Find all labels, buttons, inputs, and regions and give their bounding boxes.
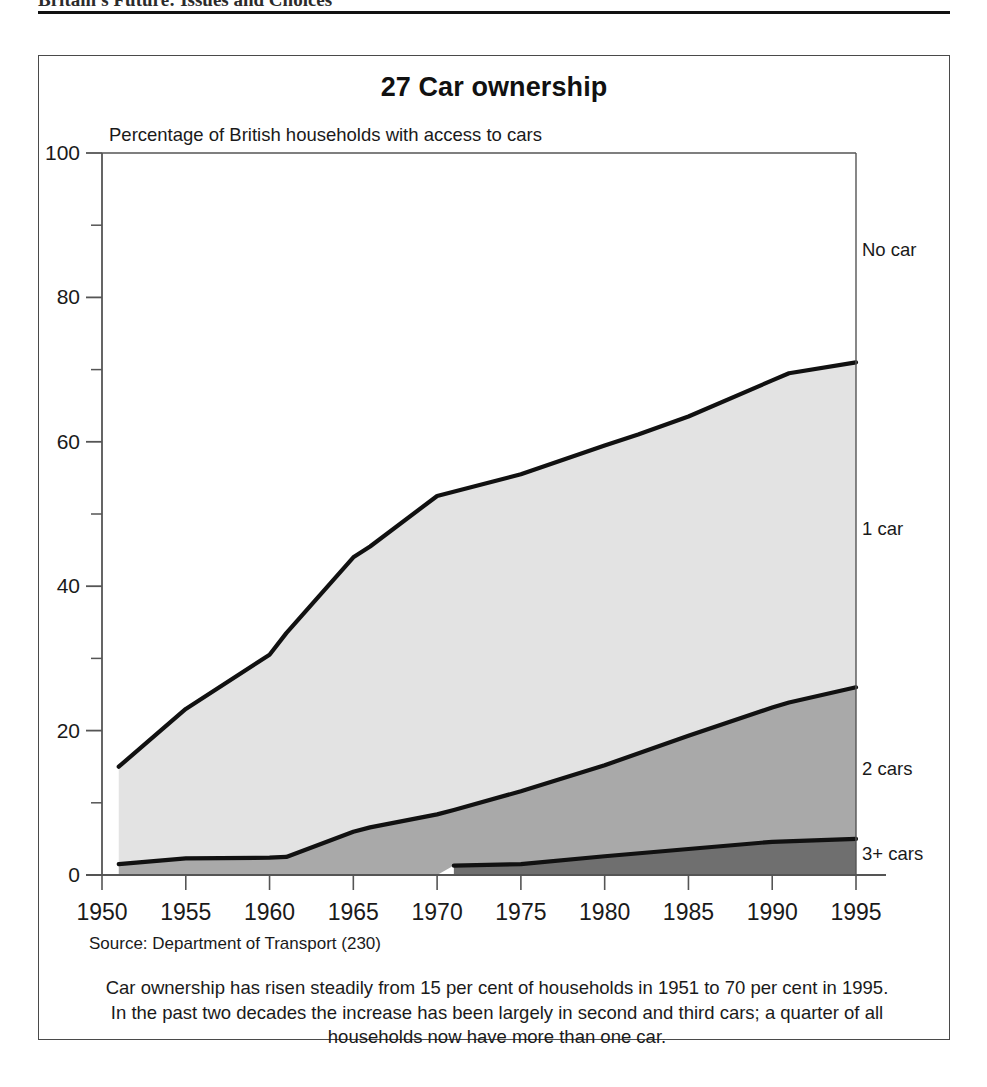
series-label-3-plus-cars: 3+ cars xyxy=(862,843,923,865)
stacked-area-chart: 0204060801001950195519601965197019751980… xyxy=(39,56,951,946)
running-head-text: Britain's Future: Issues and Choices xyxy=(38,0,332,11)
x-tick-label: 1990 xyxy=(747,899,798,925)
caption-line-2: In the past two decades the increase has… xyxy=(73,1001,921,1026)
running-head: Britain's Future: Issues and Choices xyxy=(0,0,987,22)
plot-area: 0204060801001950195519601965197019751980… xyxy=(39,56,951,946)
series-label-1-car: 1 car xyxy=(862,518,903,540)
caption-line-1: Car ownership has risen steadily from 15… xyxy=(73,976,921,1001)
y-tick-label: 0 xyxy=(68,863,80,886)
figure-caption: Car ownership has risen steadily from 15… xyxy=(73,976,921,1050)
x-tick-label: 1950 xyxy=(76,899,127,925)
running-head-rule xyxy=(38,11,950,14)
series-label-no-car: No car xyxy=(862,239,917,261)
y-tick-label: 100 xyxy=(45,141,80,164)
x-tick-label: 1970 xyxy=(412,899,463,925)
y-tick-label: 40 xyxy=(57,574,80,597)
x-tick-label: 1985 xyxy=(663,899,714,925)
series-label-2-cars: 2 cars xyxy=(862,758,912,780)
caption-line-3: households now have more than one car. xyxy=(73,1025,921,1050)
y-tick-label: 60 xyxy=(57,430,80,453)
figure-box: 27 Car ownership Percentage of British h… xyxy=(38,55,950,1040)
x-tick-label: 1955 xyxy=(160,899,211,925)
x-tick-label: 1980 xyxy=(579,899,630,925)
x-tick-label: 1960 xyxy=(244,899,295,925)
x-tick-label: 1965 xyxy=(328,899,379,925)
source-line: Source: Department of Transport (230) xyxy=(89,934,381,954)
y-tick-label: 20 xyxy=(57,719,80,742)
x-tick-label: 1995 xyxy=(830,899,881,925)
x-tick-label: 1975 xyxy=(495,899,546,925)
y-tick-label: 80 xyxy=(57,285,80,308)
